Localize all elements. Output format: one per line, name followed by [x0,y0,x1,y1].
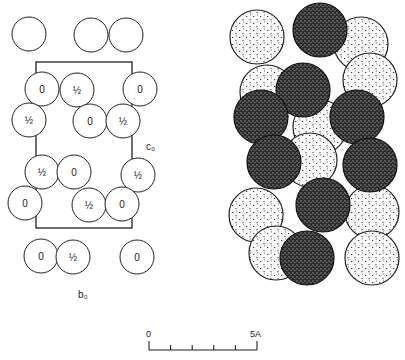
atom-height-label: 0 [39,84,45,95]
atom-height-label: ½ [119,116,128,127]
atom-circle [109,18,143,52]
atom-circle [12,17,46,51]
atom-height-label: ½ [73,85,82,96]
dark-atom [280,231,334,285]
atom-height-label: 0 [38,251,44,262]
dark-atom [293,3,347,57]
scale-bar [149,341,257,350]
light-atom [345,231,399,285]
c-axis-label: c₀ [146,141,155,152]
atom-height-label: 0 [87,116,93,127]
scale-end-label: 5A [250,329,261,339]
atom-height-label: ½ [85,200,94,211]
atom-height-label: 0 [137,84,143,95]
dark-atom [343,138,397,192]
b-axis-label: b₀ [78,289,88,300]
atom-height-label: ½ [38,167,47,178]
atom-height-label: ½ [25,115,34,126]
atom-height-label: ½ [134,170,143,181]
atom-height-label: 0 [22,198,28,209]
projection-diagram: 0½0½0½½0½0½00½0 [8,17,157,274]
dark-atom [330,90,384,144]
dark-atom [247,135,301,189]
atom-circle [74,18,108,52]
scale-start-label: 0 [146,329,151,339]
light-atom [230,10,284,64]
atom-height-label: 0 [71,167,77,178]
atom-height-label: 0 [134,252,140,263]
packing-diagram [229,3,399,285]
atom-height-label: 0 [119,199,125,210]
crystal-structure-figure: 0½0½0½½0½0½00½0 c₀ b₀ 0 5A [0,0,405,360]
atom-height-label: ½ [69,252,78,263]
dark-atom [296,178,350,232]
